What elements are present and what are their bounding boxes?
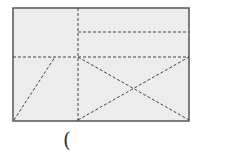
- outer-rectangle: [13, 8, 189, 121]
- answer-parenthesis: (: [63, 130, 71, 150]
- rectangle-dissection-diagram: [0, 0, 234, 162]
